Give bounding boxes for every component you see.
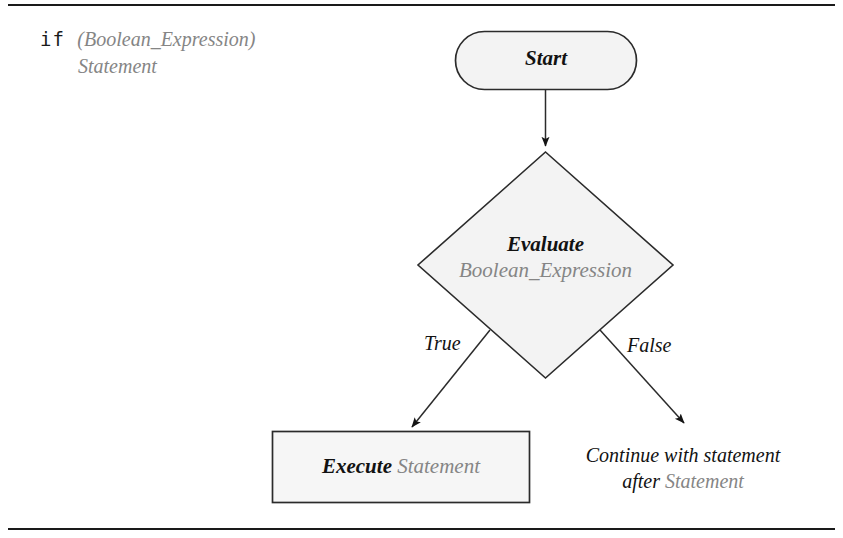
node-execute-label-plain: Statement: [397, 454, 480, 478]
node-continue-label-prefix: after: [622, 470, 665, 492]
figure-root: if (Boolean_Expression) Statement Start …: [0, 0, 843, 538]
edge-label-true: True: [424, 332, 461, 355]
node-execute-label: Execute Statement: [272, 454, 530, 479]
node-start-label: Start: [455, 46, 637, 71]
node-continue-label-line2: after Statement: [558, 470, 808, 493]
node-continue-label-line1: Continue with statement: [558, 444, 808, 467]
node-evaluate-label-line2: Boolean_Expression: [418, 258, 673, 283]
node-execute-label-strong: Execute: [322, 454, 392, 478]
edge-label-false: False: [627, 334, 671, 357]
node-continue-label-term: Statement: [665, 470, 744, 492]
node-evaluate-label-line1: Evaluate: [418, 232, 673, 257]
